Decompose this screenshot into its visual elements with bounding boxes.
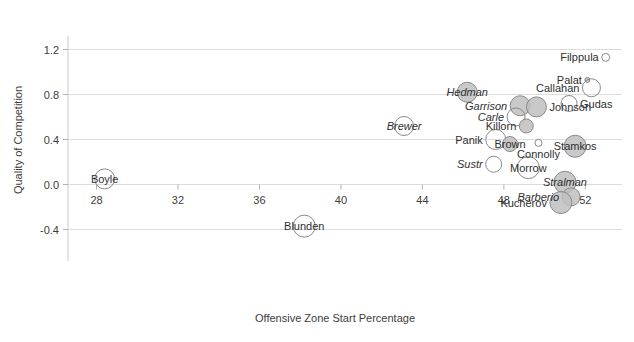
- svg-text:44: 44: [416, 194, 428, 206]
- data-point-label: Panik: [455, 134, 483, 146]
- data-point-label: Stamkos: [554, 140, 597, 152]
- data-bubble: [602, 53, 610, 61]
- data-point-label: Brewer: [387, 120, 423, 132]
- data-point-label: Gudas: [580, 98, 613, 110]
- data-point-label: Boyle: [91, 173, 119, 185]
- data-point-label: Garrison: [465, 100, 507, 112]
- data-point-label: Callahan: [536, 82, 579, 94]
- data-point-label: Killorn: [486, 120, 517, 132]
- data-point-label: Stralman: [543, 176, 587, 188]
- data-point-label: Morrow: [510, 162, 547, 174]
- svg-text:36: 36: [253, 194, 265, 206]
- data-point-label: Hedman: [446, 86, 488, 98]
- data-point-label: Filppula: [560, 51, 599, 63]
- data-bubble: [535, 139, 542, 146]
- svg-text:28: 28: [90, 194, 102, 206]
- svg-text:1.2: 1.2: [44, 44, 59, 56]
- data-bubble: [526, 97, 546, 117]
- plot-area: 1.20.80.40.0-0.4 28323640444852 Filppula…: [0, 0, 634, 342]
- data-bubble: [486, 156, 502, 172]
- svg-text:0.8: 0.8: [44, 89, 59, 101]
- y-tick-labels: 1.20.80.40.0-0.4: [40, 44, 59, 236]
- svg-text:-0.4: -0.4: [40, 224, 59, 236]
- data-point-label: Kucherov: [500, 197, 547, 209]
- svg-text:52: 52: [579, 194, 591, 206]
- x-axis-title: Offensive Zone Start Percentage: [255, 312, 415, 324]
- data-point-labels: FilppulaPalatCallahanHedmanGarrisonJohns…: [91, 51, 613, 232]
- data-bubbles: [95, 53, 610, 237]
- svg-text:0.0: 0.0: [44, 179, 59, 191]
- data-point-label: Blunden: [284, 220, 324, 232]
- y-axis-title: Quality of Competition: [12, 86, 24, 194]
- svg-text:0.4: 0.4: [44, 134, 59, 146]
- svg-text:32: 32: [172, 194, 184, 206]
- data-point-label: Sustr: [457, 158, 484, 170]
- scatter-chart: 1.20.80.40.0-0.4 28323640444852 Filppula…: [0, 0, 634, 342]
- svg-text:40: 40: [335, 194, 347, 206]
- data-bubble: [582, 79, 600, 97]
- data-bubble: [519, 119, 533, 133]
